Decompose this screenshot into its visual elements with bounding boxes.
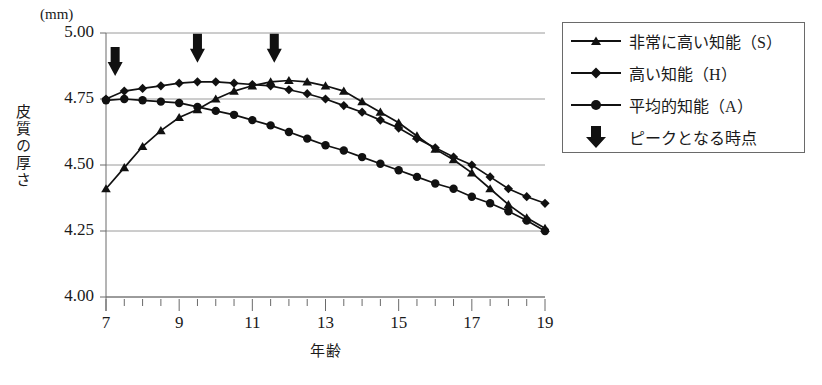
data-point: [175, 99, 183, 107]
peak-arrow-marker: [190, 34, 205, 63]
data-point: [321, 141, 329, 149]
legend-label-a: 平均的知能（A）: [629, 93, 753, 117]
data-point: [339, 101, 348, 110]
legend-key-arrow: [563, 122, 629, 152]
y-tick-label: 4.00: [38, 286, 94, 306]
triangle-icon: [589, 34, 603, 48]
circle-icon: [589, 98, 603, 112]
data-point: [229, 79, 238, 88]
x-tick-label: 11: [232, 313, 272, 333]
data-point: [174, 113, 184, 121]
data-point: [248, 116, 256, 124]
data-point: [138, 96, 146, 104]
data-point: [357, 97, 367, 105]
data-point: [467, 160, 476, 169]
data-point: [157, 97, 165, 105]
data-point: [358, 153, 366, 161]
data-point: [193, 103, 201, 111]
data-point: [321, 94, 330, 103]
data-point: [412, 134, 421, 143]
y-tick-label: 5.00: [38, 22, 94, 42]
data-point: [266, 121, 274, 129]
x-tick-label: 13: [306, 313, 346, 333]
legend-label-h: 高い知能（H）: [629, 61, 737, 85]
data-point: [175, 79, 184, 88]
x-tick-label: 9: [159, 313, 199, 333]
data-point: [413, 173, 421, 181]
x-tick-label: 7: [86, 313, 126, 333]
data-point: [522, 192, 531, 201]
data-point: [468, 192, 476, 200]
data-point: [340, 146, 348, 154]
data-point: [120, 86, 129, 95]
data-point: [193, 77, 202, 86]
x-axis-title: 年齢: [286, 339, 366, 360]
data-point: [504, 207, 512, 215]
data-point: [540, 199, 549, 208]
data-point: [449, 185, 457, 193]
data-point: [138, 84, 147, 93]
data-point: [376, 159, 384, 167]
legend-item-a: 平均的知能（A）: [563, 90, 806, 120]
legend: 非常に高い知能（S） 高い知能（H） 平均的知能（A） ピークとなる時点: [562, 22, 805, 153]
data-point: [156, 81, 165, 90]
data-point: [285, 128, 293, 136]
data-point: [486, 172, 495, 181]
y-tick-label: 4.75: [38, 88, 94, 108]
data-point: [211, 77, 220, 86]
x-tick-label: 17: [452, 313, 492, 333]
peak-arrow-marker: [108, 47, 123, 76]
y-tick-label: 4.25: [38, 220, 94, 240]
legend-key-triangle: [563, 26, 629, 56]
data-point: [102, 96, 110, 104]
data-point: [284, 85, 293, 94]
legend-item-peak: ピークとなる時点: [563, 122, 806, 152]
diamond-icon: [589, 66, 603, 80]
data-point: [357, 108, 366, 117]
legend-item-h: 高い知能（H）: [563, 58, 806, 88]
data-point: [504, 184, 513, 193]
data-point: [376, 108, 386, 116]
data-point: [303, 134, 311, 142]
legend-item-s: 非常に高い知能（S）: [563, 26, 806, 56]
data-point: [486, 199, 494, 207]
data-point: [541, 227, 549, 235]
peak-arrow-marker: [267, 34, 282, 63]
cortical-thickness-chart: (mm) 皮質の厚さ 非常に高い知能（S） 高い知能（H） 平均的知能（A）: [0, 0, 822, 385]
data-point: [431, 179, 439, 187]
legend-label-peak: ピークとなる時点: [629, 125, 757, 149]
data-point: [303, 89, 312, 98]
y-tick-label: 4.50: [38, 154, 94, 174]
data-point: [230, 111, 238, 119]
data-point: [120, 95, 128, 103]
data-point: [212, 107, 220, 115]
x-tick-label: 19: [525, 313, 565, 333]
data-point: [376, 116, 385, 125]
x-tick-label: 15: [379, 313, 419, 333]
legend-key-circle: [563, 90, 629, 120]
legend-key-diamond: [563, 58, 629, 88]
data-point: [449, 152, 458, 161]
down-arrow-icon: [585, 124, 607, 150]
legend-label-s: 非常に高い知能（S）: [629, 29, 782, 53]
data-point: [523, 216, 531, 224]
data-point: [394, 166, 402, 174]
